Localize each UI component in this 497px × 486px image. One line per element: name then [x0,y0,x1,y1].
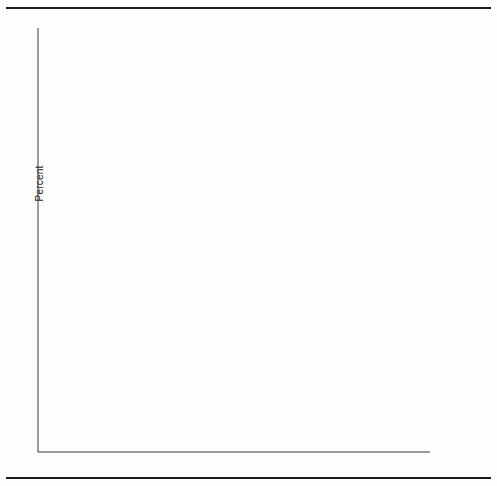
chart-axes [38,28,430,452]
figure-page: Percent [0,0,497,486]
line-chart [0,0,497,486]
